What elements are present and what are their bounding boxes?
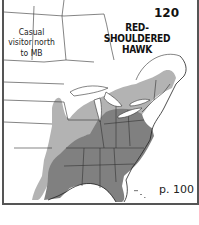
page-reference: p. 100: [159, 184, 194, 195]
caribbean-islands: [134, 190, 146, 198]
range-map-frame: 120 RED-SHOULDERED HAWK Casual visitor n…: [2, 0, 199, 205]
range-note: Casual visitor north to MB: [6, 27, 57, 58]
species-title: RED-SHOULDERED HAWK: [100, 22, 174, 55]
species-number: 120: [154, 7, 179, 19]
